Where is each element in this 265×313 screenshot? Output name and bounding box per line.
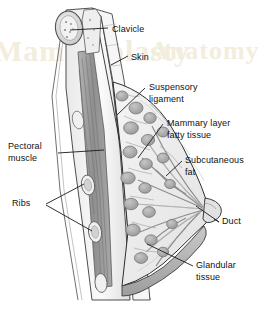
nipple bbox=[203, 198, 221, 223]
breast-anatomy-figure: Mammoplasty Anatomy bbox=[0, 0, 265, 313]
label-pectoral-muscle: Pectoralmuscle bbox=[8, 141, 42, 164]
label-glandular-tissue: Glandulartissue bbox=[196, 260, 236, 283]
label-ribs: Ribs bbox=[12, 198, 30, 210]
label-skin: Skin bbox=[131, 52, 149, 64]
label-clavicle: Clavicle bbox=[112, 24, 144, 36]
label-mammary-fatty-tissue: Mammary layerfatty tissue bbox=[167, 118, 230, 141]
label-duct: Duct bbox=[222, 216, 241, 228]
label-subcutaneous-fat: Subcutaneousfat bbox=[185, 155, 244, 178]
label-suspensory-ligament: Suspensoryligament bbox=[149, 82, 198, 105]
